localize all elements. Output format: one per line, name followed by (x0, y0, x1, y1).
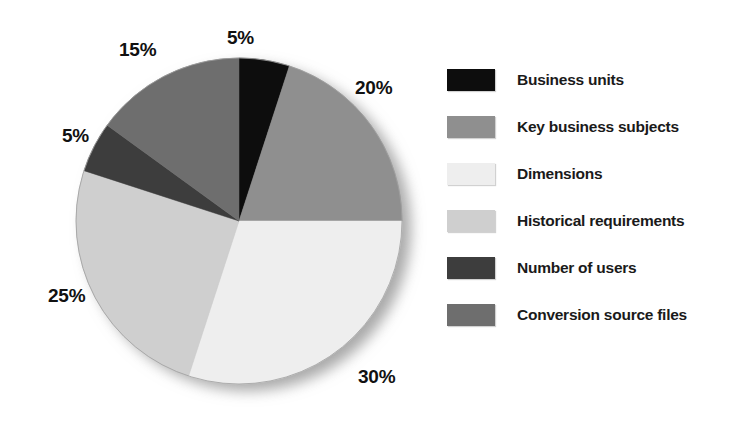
legend-item-conversion-source-files[interactable]: Conversion source files (447, 291, 731, 338)
legend-swatch-icon-conversion-source-files (447, 304, 495, 326)
legend-label-business-units: Business units (517, 71, 624, 88)
legend-item-dimensions[interactable]: Dimensions (447, 150, 731, 197)
pie-label-business-units: 5% (227, 28, 254, 47)
pie-label-key-business-subjects: 20% (355, 78, 392, 97)
pie-label-dimensions: 30% (358, 367, 395, 386)
pie-svg (0, 0, 440, 422)
pie-plot-area: 5% 20% 30% 25% 5% 15% (0, 0, 440, 422)
legend-swatch-icon-key-business-subjects (447, 116, 495, 138)
legend-swatch-icon-business-units (447, 69, 495, 91)
legend-label-key-business-subjects: Key business subjects (517, 118, 679, 135)
legend-label-number-of-users: Number of users (517, 259, 636, 276)
pie-label-conversion-source-files: 15% (119, 40, 156, 59)
legend-swatch-icon-dimensions (447, 163, 495, 185)
chart-legend: Business units Key business subjects Dim… (447, 56, 731, 338)
pie-label-historical-requirements: 25% (48, 286, 85, 305)
pie-chart-figure: 5% 20% 30% 25% 5% 15% Business units Key… (0, 0, 731, 422)
pie-slice-group (76, 58, 402, 384)
legend-label-dimensions: Dimensions (517, 165, 602, 182)
legend-swatch-icon-historical-requirements (447, 210, 495, 232)
legend-item-historical-requirements[interactable]: Historical requirements (447, 197, 731, 244)
pie-label-number-of-users: 5% (62, 126, 89, 145)
legend-item-business-units[interactable]: Business units (447, 56, 731, 103)
legend-label-historical-requirements: Historical requirements (517, 212, 684, 229)
legend-item-key-business-subjects[interactable]: Key business subjects (447, 103, 731, 150)
legend-item-number-of-users[interactable]: Number of users (447, 244, 731, 291)
legend-swatch-icon-number-of-users (447, 257, 495, 279)
legend-label-conversion-source-files: Conversion source files (517, 306, 687, 323)
